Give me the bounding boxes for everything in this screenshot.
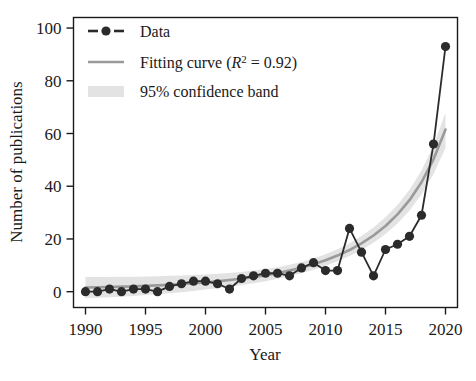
y-tick-label: 80 (45, 72, 62, 91)
data-point (177, 279, 186, 288)
data-point (357, 248, 366, 257)
data-point (333, 266, 342, 275)
x-tick-label: 2005 (249, 320, 283, 339)
data-point (261, 269, 270, 278)
legend-label-data: Data (140, 23, 170, 40)
x-tick-label: 2015 (369, 320, 403, 339)
legend-band-swatch-icon (88, 86, 124, 97)
data-point (201, 277, 210, 286)
data-point (345, 224, 354, 233)
x-tick-label: 2010 (309, 320, 343, 339)
data-point (225, 284, 234, 293)
data-point (117, 287, 126, 296)
data-point (429, 139, 438, 148)
x-tick-label: 2000 (189, 320, 223, 339)
y-tick-label: 20 (45, 230, 62, 249)
data-point (393, 240, 402, 249)
y-tick-label: 60 (45, 125, 62, 144)
data-point (417, 211, 426, 220)
legend-label-fitting-curve: Fitting curve (R2 = 0.92) (140, 53, 297, 72)
data-point (141, 284, 150, 293)
publications-trend-chart: 1990199520002005201020152020 02040608010… (0, 0, 476, 381)
legend-label-confidence-band: 95% confidence band (140, 83, 279, 100)
data-point (81, 287, 90, 296)
x-tick-label: 1990 (69, 320, 103, 339)
data-point (93, 287, 102, 296)
data-point (129, 284, 138, 293)
x-tick-label: 2020 (429, 320, 463, 339)
x-axis-title: Year (249, 345, 281, 364)
data-point (273, 269, 282, 278)
data-point (105, 284, 114, 293)
data-point (381, 245, 390, 254)
data-point (213, 279, 222, 288)
chart-canvas: 1990199520002005201020152020 02040608010… (0, 0, 476, 381)
data-point (153, 287, 162, 296)
data-point (285, 271, 294, 280)
data-point (321, 266, 330, 275)
x-tick-label: 1995 (129, 320, 163, 339)
data-point (165, 282, 174, 291)
data-point (189, 277, 198, 286)
data-point (405, 232, 414, 241)
y-axis-title: Number of publications (7, 81, 26, 242)
y-tick-label: 0 (53, 283, 62, 302)
legend-circle-marker-icon (101, 26, 110, 35)
data-point (309, 258, 318, 267)
data-point (237, 274, 246, 283)
y-tick-label: 100 (36, 19, 62, 38)
data-point (441, 42, 450, 51)
y-tick-label: 40 (45, 177, 62, 196)
data-point (297, 263, 306, 272)
data-point (369, 271, 378, 280)
data-point (249, 271, 258, 280)
